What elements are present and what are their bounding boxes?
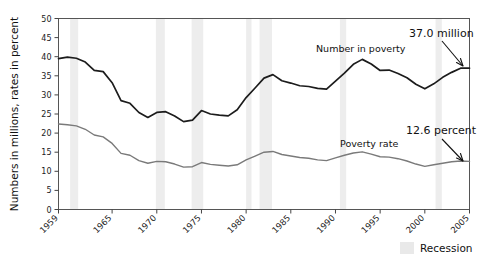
poverty-rate-label: Poverty rate <box>340 138 398 149</box>
recession-band <box>70 19 78 210</box>
y-tick-label: 25 <box>41 110 51 119</box>
y-tick-label: 35 <box>41 72 51 81</box>
x-tick-label: 1975 <box>180 213 202 235</box>
y-axis-title: Numbers in millions, rates in percent <box>8 17 20 211</box>
recession-band <box>436 19 442 210</box>
y-tick-label: 20 <box>41 129 51 138</box>
y-tick-label: 45 <box>41 34 51 43</box>
legend-label-recession: Recession <box>420 242 472 254</box>
x-tick-label: 1990 <box>315 213 337 235</box>
number-in-poverty-label: Number in poverty <box>316 43 406 54</box>
x-tick-label: 1970 <box>136 213 158 235</box>
recession-band <box>246 19 251 210</box>
rate-endpoint-arrow <box>442 139 463 161</box>
x-tick-label: 2000 <box>404 213 426 235</box>
recession-band <box>260 19 273 210</box>
y-axis-ticks: 05101520253035404550 <box>41 15 58 215</box>
recession-band <box>156 19 165 210</box>
x-tick-label: 1959 <box>38 213 60 235</box>
y-tick-label: 15 <box>41 148 51 157</box>
rate-endpoint-value: 12.6 percent <box>406 124 477 137</box>
y-tick-label: 0 <box>46 206 51 215</box>
x-tick-label: 1980 <box>225 213 247 235</box>
y-tick-label: 5 <box>46 186 51 195</box>
x-axis-ticks: 1959196519701975198019851990199520002005 <box>38 210 471 236</box>
y-tick-label: 10 <box>41 167 51 176</box>
chart-canvas: 05101520253035404550 1959196519701975198… <box>0 0 487 263</box>
y-tick-label: 30 <box>41 91 51 100</box>
x-tick-label: 2005 <box>449 213 471 235</box>
x-tick-label: 1965 <box>91 213 113 235</box>
recession-swatch-icon <box>400 242 414 254</box>
poverty-chart: 05101520253035404550 1959196519701975198… <box>0 0 487 263</box>
legend-recession: Recession <box>400 242 472 254</box>
x-tick-label: 1985 <box>270 213 292 235</box>
number-endpoint-arrow <box>442 41 463 66</box>
x-tick-label: 1995 <box>359 213 381 235</box>
y-tick-label: 50 <box>41 15 51 24</box>
number-endpoint-value: 37.0 million <box>409 27 474 40</box>
y-tick-label: 40 <box>41 53 51 62</box>
